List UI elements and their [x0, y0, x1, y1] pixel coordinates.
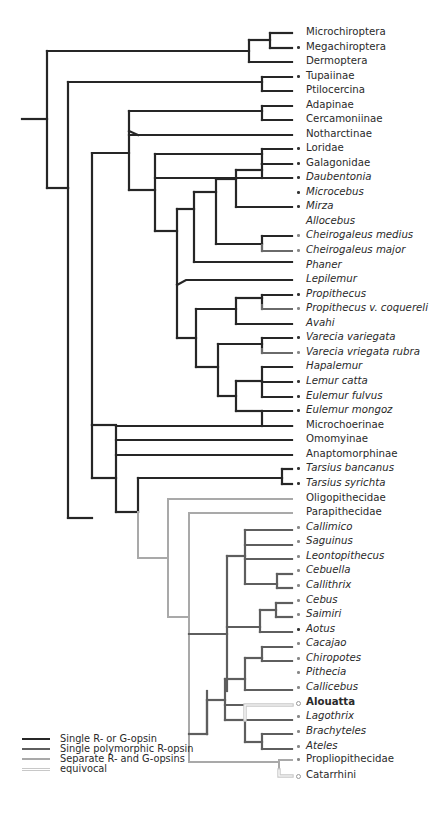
dot-marker-icon [297, 205, 300, 208]
open-circle-marker-icon [296, 701, 301, 706]
taxon-label: Chiropotes [306, 652, 361, 664]
taxon-label: Anaptomorphinae [306, 448, 397, 460]
dot-marker-icon [297, 555, 300, 558]
taxon-label: Daubentonia [306, 171, 372, 183]
legend-swatch-black [22, 738, 50, 740]
legend-label: equivocal [60, 764, 107, 774]
taxon-label: Saguinus [306, 535, 353, 547]
taxon-label: Callicebus [306, 681, 358, 693]
dot-marker-icon [297, 613, 300, 616]
dot-marker-icon [297, 569, 300, 572]
legend-swatch-light-grey [22, 758, 50, 760]
taxon-label: Loridae [306, 142, 344, 154]
dot-marker-icon [297, 715, 300, 718]
legend-swatch-equivocal [22, 768, 50, 771]
taxon-label: Galagonidae [306, 157, 370, 169]
dot-marker-icon [297, 599, 300, 602]
dot-marker-icon [297, 191, 300, 194]
taxon-label: Phaner [306, 259, 342, 271]
dot-marker-icon [297, 249, 300, 252]
taxon-label: Propliopithecidae [306, 753, 394, 765]
dot-marker-icon [297, 467, 300, 470]
taxon-label: Cercamoniinae [306, 113, 382, 125]
clade-single-r-or-g [22, 33, 292, 518]
dot-marker-icon [297, 307, 300, 310]
taxon-label: Lemur catta [306, 375, 368, 387]
dot-marker-icon [297, 628, 300, 631]
taxon-label: Avahi [306, 317, 335, 329]
taxon-label: Microchiroptera [306, 26, 386, 38]
clade-single-polymorphic-r [189, 530, 292, 749]
taxon-label: Ptilocercina [306, 84, 365, 96]
dot-marker-icon [297, 758, 300, 761]
dot-marker-icon [297, 730, 300, 733]
legend-item-separate-r-and-g: Separate R- and G-opsins [22, 754, 194, 764]
branches-equivocal [245, 705, 292, 776]
taxon-label: Mirza [306, 200, 333, 212]
taxon-label: Cheirogaleus major [306, 244, 405, 256]
taxon-label: Propithecus v. coquereli [306, 302, 428, 314]
taxon-label: Callithrix [306, 579, 351, 591]
taxon-label: Adapinae [306, 99, 354, 111]
taxon-label: Cacajao [306, 637, 347, 649]
taxon-label: Varecia variegata [306, 331, 395, 343]
dot-marker-icon [297, 75, 300, 78]
dot-marker-icon [297, 46, 300, 49]
taxon-label: Oligopithecidae [306, 492, 386, 504]
taxon-label: Allocebus [306, 215, 355, 227]
taxon-label: Aotus [306, 623, 335, 635]
taxon-label: Varecia vriegata rubra [306, 346, 420, 358]
dot-marker-icon [297, 176, 300, 179]
open-circle-marker-icon [296, 774, 301, 779]
dot-marker-icon [297, 162, 300, 165]
dot-marker-icon [297, 745, 300, 748]
taxon-label: Microchoerinae [306, 419, 384, 431]
taxon-label: Eulemur fulvus [306, 390, 382, 402]
dot-marker-icon [297, 482, 300, 485]
dot-marker-icon [297, 293, 300, 296]
taxon-label: Hapalemur [306, 360, 362, 372]
dot-marker-icon [297, 336, 300, 339]
dot-marker-icon [297, 526, 300, 529]
dot-marker-icon [297, 642, 300, 645]
dot-marker-icon [297, 234, 300, 237]
dot-marker-icon [297, 395, 300, 398]
taxon-label: Tarsius syrichta [306, 477, 385, 489]
dot-marker-icon [297, 409, 300, 412]
taxon-label: Tarsius bancanus [306, 462, 394, 474]
taxon-label: Propithecus [306, 288, 366, 300]
taxon-label: Catarrhini [306, 769, 356, 781]
taxon-label: Omomyinae [306, 433, 368, 445]
taxon-label: Cebuella [306, 564, 350, 576]
taxon-label: Pithecia [306, 666, 346, 678]
dot-marker-icon [297, 540, 300, 543]
taxon-label: Brachyteles [306, 725, 366, 737]
legend: Single R- or G-opsin Single polymorphic … [22, 734, 194, 774]
taxon-label: Saimiri [306, 608, 341, 620]
taxon-label: Parapithecidae [306, 506, 382, 518]
dot-marker-icon [297, 657, 300, 660]
dot-marker-icon [297, 351, 300, 354]
taxon-label: Leontopithecus [306, 550, 384, 562]
taxon-label: Microcebus [306, 186, 364, 198]
dot-marker-icon [297, 147, 300, 150]
taxon-label: Megachiroptera [306, 41, 386, 53]
taxon-label: Ateles [306, 740, 338, 752]
taxon-label: Eulemur mongoz [306, 404, 392, 416]
taxon-label: Cheirogaleus medius [306, 229, 413, 241]
dot-marker-icon [297, 686, 300, 689]
taxon-label: Dermoptera [306, 55, 367, 67]
taxon-label: Tupaiinae [306, 70, 354, 82]
taxon-label: Callimico [306, 521, 352, 533]
dot-marker-icon [297, 671, 300, 674]
legend-item-equivocal: equivocal [22, 764, 194, 774]
taxon-label: Lagothrix [306, 710, 354, 722]
taxon-label: Notharctinae [306, 128, 372, 140]
legend-swatch-dark-grey [22, 748, 50, 750]
taxon-label: Cebus [306, 594, 338, 606]
taxon-label: Alouatta [306, 696, 355, 708]
dot-marker-icon [297, 584, 300, 587]
dot-marker-icon [297, 380, 300, 383]
taxon-label: Lepilemur [306, 273, 357, 285]
